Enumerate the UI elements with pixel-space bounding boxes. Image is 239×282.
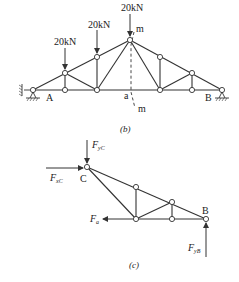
load-label-3: 20kN xyxy=(121,2,143,13)
label-c-node: C xyxy=(80,173,87,184)
caption-c: (c) xyxy=(129,260,139,270)
label-fxc: FxC xyxy=(49,172,64,184)
caption-b: (b) xyxy=(120,124,131,134)
label-b-node: B xyxy=(202,205,209,216)
load-label-2: 20kN xyxy=(88,19,110,30)
section-cut-m-m xyxy=(131,32,135,108)
label-fyb: FyB xyxy=(187,242,201,254)
label-a-support: A xyxy=(46,92,54,103)
pin-support-a-icon xyxy=(19,84,40,101)
label-a-node: a xyxy=(124,90,129,101)
label-fa: Fa xyxy=(89,213,99,225)
roller-support-b-icon xyxy=(215,92,229,101)
label-m-bottom: m xyxy=(138,103,146,114)
load-label-1: 20kN xyxy=(54,36,76,47)
truss-c-members xyxy=(87,167,206,219)
truss-diagram-canvas: 20kN 20kN 20kN A B a m m (b) xyxy=(0,0,239,282)
truss-b: 20kN 20kN 20kN A B a m m (b) xyxy=(19,2,229,134)
label-m-top: m xyxy=(136,23,144,34)
label-fyc: FyC xyxy=(91,139,106,151)
truss-b-members xyxy=(33,40,222,90)
truss-c: FyC FxC C B Fa FyB (c) xyxy=(46,139,209,270)
label-b-support: B xyxy=(205,92,212,103)
